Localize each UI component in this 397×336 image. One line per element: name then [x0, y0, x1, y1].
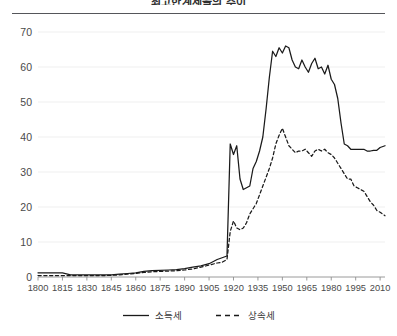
chart-legend: 소득세 상속세 — [0, 310, 397, 321]
y-axis-tick-label: 30 — [6, 167, 32, 177]
x-axis-tick-label: 2010 — [360, 283, 397, 293]
legend-item-income-tax: 소득세 — [123, 310, 182, 321]
y-axis-tick-label: 60 — [6, 62, 32, 72]
y-axis-tick-label: 20 — [6, 202, 32, 212]
series-line-income-tax — [38, 46, 385, 275]
series-line-inheritance-tax — [38, 128, 385, 275]
y-axis-tick-label: 40 — [6, 132, 32, 142]
y-axis-tick-label: 50 — [6, 97, 32, 107]
y-axis-tick-label: 0 — [6, 272, 32, 282]
dashed-line-swatch — [216, 312, 242, 319]
legend-item-inheritance-tax: 상속세 — [216, 310, 275, 321]
legend-label-income-tax: 소득세 — [155, 310, 182, 321]
y-axis-tick-label: 70 — [6, 27, 32, 37]
tax-rate-line-chart: 최고한계세율의 추이 010203040506070 1800181518301… — [0, 0, 397, 336]
solid-line-swatch — [123, 312, 149, 319]
y-axis-tick-label: 10 — [6, 237, 32, 247]
legend-label-inheritance-tax: 상속세 — [248, 310, 275, 321]
